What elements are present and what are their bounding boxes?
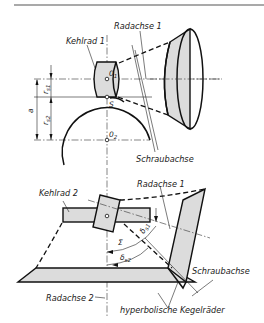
label-schraubachse-top: Schraubachse: [136, 154, 194, 164]
label-sigma: Σ: [118, 238, 123, 247]
arrow-sigma: [107, 250, 113, 254]
label-o2: 02: [109, 130, 118, 140]
label-dim-rs2: rs2: [41, 115, 51, 125]
label-radachse-1-bottom: Radachse 1: [137, 179, 185, 189]
dim-arrow-rs2-bottom: [50, 134, 53, 140]
label-dim-a: a: [26, 108, 35, 113]
label-kehlrad-1: Kehlrad 1: [66, 36, 105, 46]
leader-kehlrad-1: [87, 45, 95, 68]
label-hyperbolic-gears: hyperbolische Kegelräder: [120, 305, 225, 315]
pitch-point-s: [105, 95, 109, 99]
cone-generator-top: [119, 42, 170, 63]
label-delta-s1: δs1: [138, 221, 152, 235]
dim-arrow-a-bottom: [36, 134, 39, 140]
label-delta-s2: δs2: [120, 253, 131, 263]
center-point-kehlrad-2: [105, 214, 109, 218]
dim-arrow-a-top: [36, 79, 39, 85]
leader-radachse-1: [140, 31, 146, 79]
leader-radachse-1-bottom: [160, 186, 170, 229]
bevel-gear-2-base: [18, 268, 195, 282]
hyperbolic-gear-diagram: Radachse 1 Kehlrad 1 Schraubachse 01 S 0…: [0, 0, 264, 323]
throat-wheel-2-block: [93, 195, 120, 232]
wheel-2-outline-dashed: [36, 223, 62, 268]
label-schraubachse-bottom: Schraubachse: [192, 266, 250, 276]
dim-arrow-rs1-bottom: [50, 97, 53, 103]
label-radachse-2: Radachse 2: [46, 293, 94, 303]
leader-schraubachse: [135, 50, 158, 150]
label-s: S: [109, 100, 114, 109]
label-dim-rs1: rs1: [41, 85, 51, 94]
bottom-diagram: Kehlrad 2 Radachse 1 Schraubachse Radach…: [18, 168, 250, 318]
top-diagram: Radachse 1 Kehlrad 1 Schraubachse 01 S 0…: [26, 21, 222, 165]
leader-radachse-2: [95, 297, 105, 298]
label-kehlrad-2: Kehlrad 2: [39, 188, 78, 198]
dim-arrow-rs1-top: [50, 73, 53, 79]
label-radachse-1-top: Radachse 1: [114, 21, 162, 31]
